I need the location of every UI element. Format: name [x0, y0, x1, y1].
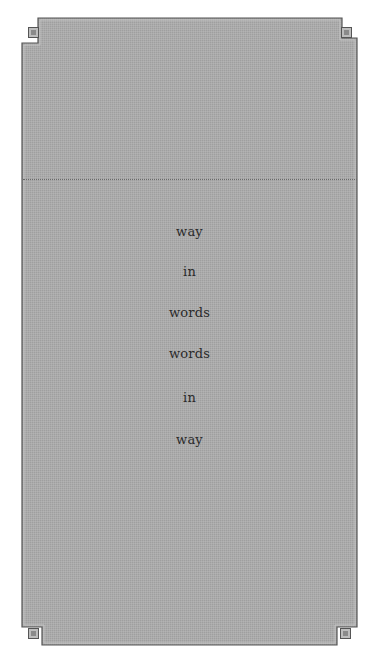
poem-line: way [0, 432, 379, 447]
poem-line: in [0, 390, 379, 405]
poem-line: words [0, 305, 379, 320]
poem: way in words words in way [0, 0, 379, 667]
poem-line: way [0, 224, 379, 239]
poem-line: words [0, 346, 379, 361]
poem-line: in [0, 264, 379, 279]
